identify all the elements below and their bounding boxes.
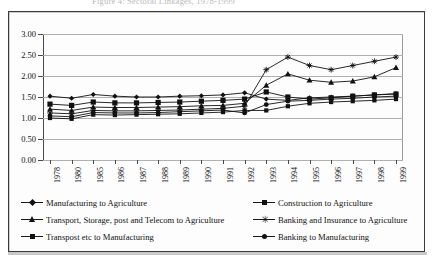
x-axis-tick-label: 1978 bbox=[54, 167, 62, 183]
x-axis-tick-label: 1987 bbox=[140, 167, 148, 183]
data-point-marker bbox=[91, 92, 96, 97]
data-point-marker bbox=[285, 71, 291, 76]
y-axis-tick-label: 0.50 bbox=[21, 135, 36, 144]
plot-area: 0.000.501.001.502.002.503.00 19781980198… bbox=[43, 34, 403, 160]
data-point-marker bbox=[91, 110, 96, 115]
x-axis-tick-label: 1992 bbox=[248, 167, 256, 183]
legend-item[interactable]: Banking to Manufacturing bbox=[253, 228, 423, 245]
x-axis-tick-label: 1980 bbox=[75, 167, 83, 183]
data-point-marker bbox=[47, 94, 52, 99]
data-point-marker bbox=[134, 111, 139, 116]
legend-marker-icon bbox=[253, 232, 275, 242]
data-point-marker bbox=[307, 63, 313, 69]
data-point-marker bbox=[69, 114, 74, 119]
data-point-marker bbox=[263, 67, 269, 73]
x-axis-tick-label: 1990 bbox=[205, 167, 213, 183]
x-axis-tick-label: 1989 bbox=[183, 167, 191, 183]
legend-item-label: Manufacturing to Agriculture bbox=[46, 198, 147, 208]
data-point-marker bbox=[242, 103, 248, 109]
series-lines bbox=[43, 34, 403, 161]
data-point-marker bbox=[242, 111, 247, 116]
y-axis-tick-label: 1.00 bbox=[21, 114, 36, 123]
data-point-marker bbox=[112, 94, 117, 99]
data-point-marker bbox=[220, 92, 225, 97]
data-point-marker bbox=[307, 98, 312, 103]
x-axis-tick-label: 1999 bbox=[400, 167, 408, 183]
data-point-marker bbox=[328, 67, 334, 73]
x-axis-tick-label: 1998 bbox=[378, 167, 386, 183]
data-point-marker bbox=[91, 99, 96, 104]
data-point-marker bbox=[372, 95, 377, 100]
x-axis-tick-label: 1997 bbox=[356, 167, 364, 183]
legend-marker-icon bbox=[253, 198, 275, 208]
data-point-marker bbox=[371, 58, 377, 64]
legend-item-label: Transpost etc to Manufacturing bbox=[46, 232, 154, 242]
y-axis-tick-label: 3.00 bbox=[21, 30, 36, 39]
x-axis-tick-label: 1986 bbox=[118, 167, 126, 183]
data-point-marker bbox=[264, 89, 269, 94]
data-point-marker bbox=[264, 97, 269, 102]
data-point-marker bbox=[264, 102, 269, 107]
legend-marker-icon bbox=[21, 215, 43, 225]
legend-item[interactable]: Construction to Agriculture bbox=[253, 194, 423, 211]
chart-legend: Manufacturing to AgricultureTransport, S… bbox=[21, 194, 419, 246]
legend-item[interactable]: Transport, Storage, post and Telecom to … bbox=[21, 211, 251, 228]
chart-frame: 0.000.501.001.502.002.503.00 19781980198… bbox=[8, 11, 425, 252]
cropped-title-strip: Figure 4: Sectoral Linkages, 1978-1999 bbox=[0, 0, 435, 9]
data-point-marker bbox=[199, 93, 204, 98]
legend-marker-icon: ✳ bbox=[253, 215, 275, 225]
data-point-marker bbox=[69, 96, 74, 101]
legend-column-left: Manufacturing to AgricultureTransport, S… bbox=[21, 194, 251, 245]
legend-item[interactable]: Transpost etc to Manufacturing bbox=[21, 228, 251, 245]
data-point-marker bbox=[199, 108, 204, 113]
data-point-marker bbox=[47, 102, 52, 107]
data-point-marker bbox=[371, 74, 377, 79]
data-point-marker bbox=[177, 109, 182, 114]
x-axis-tick-label: 1988 bbox=[162, 167, 170, 183]
x-axis-tick-label: 1995 bbox=[313, 167, 321, 183]
data-point-marker bbox=[134, 94, 139, 99]
data-point-marker bbox=[156, 94, 161, 99]
page-title: Figure 4: Sectoral Linkages, 1978-1999 bbox=[92, 0, 235, 6]
data-point-marker bbox=[285, 54, 291, 60]
data-point-marker bbox=[48, 114, 53, 119]
data-point-marker bbox=[393, 65, 399, 70]
legend-marker-icon bbox=[21, 232, 43, 242]
data-point-marker bbox=[221, 108, 226, 113]
y-axis-tick-label: 2.00 bbox=[21, 72, 36, 81]
legend-column-right: Construction to Agriculture✳Banking and … bbox=[253, 194, 423, 245]
data-point-marker bbox=[394, 94, 399, 99]
x-axis-tick-label: 1993 bbox=[270, 167, 278, 183]
data-point-marker bbox=[177, 94, 182, 99]
legend-item-label: Construction to Agriculture bbox=[278, 198, 373, 208]
data-point-marker bbox=[393, 54, 399, 60]
legend-item-label: Banking and Insurance to Agriculture bbox=[278, 215, 407, 225]
x-axis-tick-label: 1996 bbox=[335, 167, 343, 183]
data-point-marker bbox=[112, 111, 117, 116]
data-point-marker bbox=[285, 99, 290, 104]
data-point-marker bbox=[156, 110, 161, 115]
data-point-marker bbox=[264, 108, 268, 112]
data-point-marker bbox=[69, 103, 74, 108]
data-point-marker bbox=[329, 97, 334, 102]
x-axis-tick-label: 1991 bbox=[227, 167, 235, 183]
data-point-marker bbox=[263, 82, 269, 87]
legend-item[interactable]: Manufacturing to Agriculture bbox=[21, 194, 251, 211]
legend-item-label: Banking to Manufacturing bbox=[278, 232, 369, 242]
data-point-marker bbox=[220, 98, 225, 103]
x-axis-tick-label: 1994 bbox=[291, 167, 299, 183]
data-point-marker bbox=[242, 90, 247, 95]
data-point-marker bbox=[350, 96, 355, 101]
y-axis-tick-label: 2.50 bbox=[21, 51, 36, 60]
legend-item[interactable]: ✳Banking and Insurance to Agriculture bbox=[253, 211, 423, 228]
x-axis-tick-label: 1985 bbox=[97, 167, 105, 183]
y-axis-tick-label: 1.50 bbox=[21, 93, 36, 102]
y-axis-tick-label: 0.00 bbox=[21, 156, 36, 165]
legend-item-label: Transport, Storage, post and Telecom to … bbox=[46, 215, 224, 225]
data-point-marker bbox=[350, 63, 356, 69]
legend-marker-icon bbox=[21, 198, 43, 208]
data-point-marker bbox=[286, 104, 290, 108]
